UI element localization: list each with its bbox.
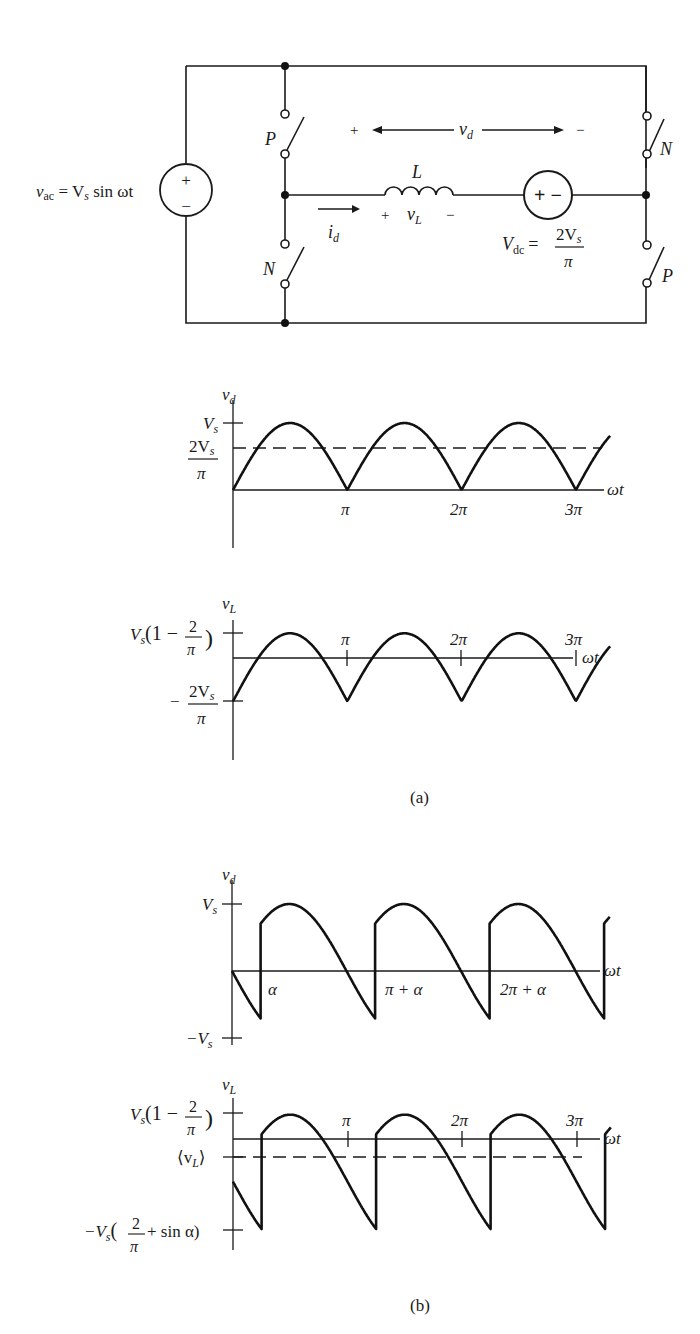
x-tick-pi: π — [342, 1111, 351, 1130]
x-tick-3pi: 3π — [564, 630, 583, 649]
current-arrow-head-icon — [352, 205, 360, 213]
tick-bot-num: 2Vs — [189, 682, 215, 703]
tick-top-den: π — [187, 1121, 196, 1138]
arrow-right-icon — [554, 126, 564, 134]
x-tick-pi-alpha: π + α — [385, 980, 423, 999]
switch-contact — [281, 110, 289, 118]
tick-vs: Vs — [203, 414, 218, 436]
tick-bot: −Vs( — [84, 1219, 118, 1244]
tick-avg-num: 2Vs — [189, 437, 215, 458]
x-tick-2pi-alpha: 2π + α — [500, 980, 547, 999]
vd-label: vd — [459, 119, 474, 142]
vd-plus: + — [350, 122, 358, 138]
x-tick-2pi: 2π — [450, 500, 468, 519]
plot-b-vl: vL Vs(1 − 2 π ) ⟨vL⟩ −Vs( 2 π + sin α) π… — [84, 1075, 622, 1255]
vdc-denominator: π — [564, 252, 573, 271]
switch-n-left-label: N — [262, 259, 276, 279]
arrow-left-icon — [372, 126, 382, 134]
plot-a-vd: vd Vs 2Vs π π 2π 3π ωt — [188, 385, 625, 548]
tick-top: Vs(1 − — [130, 1102, 178, 1127]
x-label: ωt — [582, 648, 600, 667]
vdc-numerator: 2Vs — [556, 225, 582, 246]
switch-p-right-label: P — [661, 266, 673, 286]
switch-contact — [643, 279, 651, 287]
y-label: vL — [222, 594, 237, 616]
switch-p-left-blade[interactable] — [287, 117, 304, 150]
top-wire — [186, 66, 646, 168]
tick-top-den: π — [187, 641, 196, 658]
x-label: ωt — [604, 961, 622, 980]
inductor-coil — [385, 187, 453, 195]
circuit-diagram: + − vac = Vs sin ωt P N N — [36, 62, 673, 327]
tick-bot-den: π — [130, 1238, 139, 1255]
x-tick-pi: π — [341, 630, 350, 649]
y-label: vd — [222, 865, 237, 887]
tick-neg-vs: −Vs — [186, 1029, 213, 1051]
tick-bot-minus: − — [170, 692, 180, 711]
x-tick-pi: π — [341, 500, 350, 519]
current-label: id — [328, 222, 340, 245]
switch-contact — [281, 240, 289, 248]
junction-node — [281, 62, 289, 70]
x-tick-3pi: 3π — [564, 500, 583, 519]
x-tick-2pi: 2π — [451, 1111, 469, 1130]
x-label: ωt — [604, 1129, 622, 1148]
vd-waveform — [233, 423, 610, 490]
ac-source: + − vac = Vs sin ωt — [36, 164, 212, 216]
switch-contact — [643, 150, 651, 158]
right-leg: N P — [642, 66, 673, 287]
vd-waveform — [232, 904, 610, 1018]
tick-bot-tail: + sin α) — [147, 1222, 200, 1241]
load-branch: + − L + vL − id + vd − Vdc= 2Vs π — [285, 119, 646, 271]
tick-bot-den: π — [197, 709, 206, 728]
x-tick-3pi: 3π — [565, 1111, 584, 1130]
plot-b-vd: vd Vs −Vs α π + α 2π + α ωt — [186, 865, 622, 1051]
figure: + − vac = Vs sin ωt P N N — [0, 0, 700, 1334]
switch-p-left-label: P — [264, 129, 276, 149]
inductor-label: L — [411, 162, 422, 182]
tick-top-paren: ) — [205, 1105, 213, 1131]
vl-label: vL — [407, 204, 422, 227]
tick-top-num: 2 — [189, 1098, 197, 1115]
switch-contact — [643, 241, 651, 249]
ac-minus-sign: − — [181, 197, 191, 216]
dc-source-polarity: + − — [534, 184, 562, 206]
plot-a-vl: vL Vs(1 − 2 π ) − 2Vs π π 2π 3π ωt — [130, 594, 610, 760]
figure-canvas: + − vac = Vs sin ωt P N N — [0, 0, 700, 1334]
vl-plus: + — [381, 207, 389, 223]
switch-contact — [281, 280, 289, 288]
vd-minus: − — [576, 122, 584, 138]
y-label: vd — [222, 385, 237, 407]
tick-vs: Vs — [202, 895, 217, 917]
vl-waveform — [233, 1115, 611, 1229]
switch-contact — [281, 150, 289, 158]
tick-top-paren: ) — [205, 625, 213, 651]
vdc-label: Vdc= — [502, 234, 538, 257]
tick-avg-den: π — [197, 464, 206, 483]
switch-n-right-label: N — [659, 139, 673, 159]
tick-avg: ⟨vL⟩ — [177, 1148, 205, 1170]
tick-top: Vs(1 − — [130, 622, 178, 647]
caption-a: (a) — [410, 788, 429, 807]
x-label: ωt — [607, 480, 625, 499]
caption-b: (b) — [410, 1296, 430, 1315]
x-tick-2pi: 2π — [450, 630, 468, 649]
tick-bot-num: 2 — [132, 1215, 140, 1232]
switch-contact — [643, 112, 651, 120]
y-label: vL — [222, 1075, 237, 1097]
vl-waveform — [233, 633, 610, 701]
ac-source-label: vac = Vs sin ωt — [36, 182, 133, 203]
vl-minus: − — [446, 207, 454, 223]
switch-n-left-blade[interactable] — [287, 247, 304, 280]
x-tick-alpha: α — [268, 980, 278, 999]
tick-top-num: 2 — [189, 618, 197, 635]
junction-node — [281, 319, 289, 327]
ac-plus-sign: + — [181, 171, 191, 190]
